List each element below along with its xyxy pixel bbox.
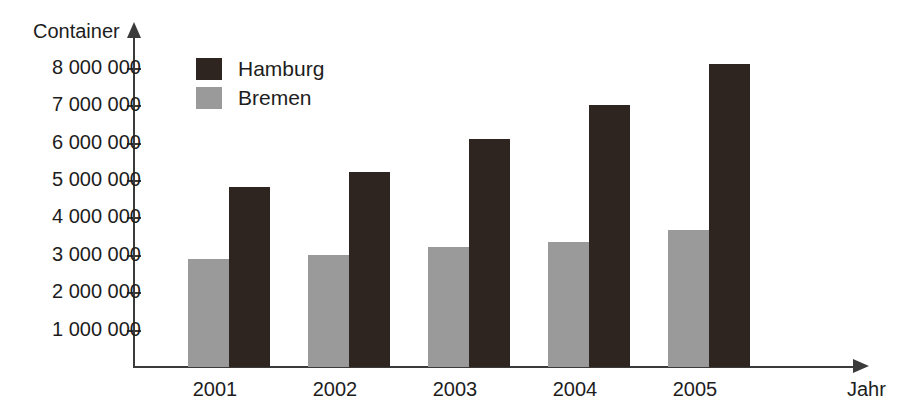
bar-hamburg-2001 (229, 187, 270, 367)
legend-item-hamburg: Hamburg (196, 54, 324, 83)
chart-legend: HamburgBremen (196, 54, 324, 112)
legend-item-bremen: Bremen (196, 83, 324, 112)
legend-label: Bremen (238, 86, 312, 110)
legend-swatch-bremen (196, 87, 222, 109)
x-axis-tick-label: 2002 (275, 378, 395, 401)
y-axis-title: Container (33, 20, 120, 43)
bar-bremen-2003 (428, 247, 469, 367)
x-axis-tick-label: 2001 (155, 378, 275, 401)
bar-group-2003 (402, 34, 522, 367)
bar-bremen-2005 (668, 230, 709, 367)
bar-bremen-2002 (308, 255, 349, 367)
y-axis-tick-label: 1 000 000 (27, 318, 141, 341)
bar-hamburg-2003 (469, 139, 510, 367)
bar-chart: Container 1 000 0002 000 0003 000 0004 0… (0, 0, 901, 411)
y-axis-tick-label: 7 000 000 (27, 93, 141, 116)
y-axis-tick-label: 5 000 000 (27, 168, 141, 191)
x-axis-title: Jahr (847, 378, 886, 401)
y-axis-tick-label: 8 000 000 (27, 56, 141, 79)
bar-group-2005 (642, 34, 762, 367)
bar-hamburg-2005 (709, 64, 750, 367)
x-axis-tick-label: 2004 (515, 378, 635, 401)
x-axis-tick-label: 2005 (635, 378, 755, 401)
y-axis-tick-label: 3 000 000 (27, 243, 141, 266)
y-axis-tick-label: 6 000 000 (27, 131, 141, 154)
bar-hamburg-2004 (589, 105, 630, 367)
bar-bremen-2001 (188, 259, 229, 368)
legend-label: Hamburg (238, 57, 324, 81)
y-axis-tick-label: 4 000 000 (27, 205, 141, 228)
legend-swatch-hamburg (196, 58, 222, 80)
bar-hamburg-2002 (349, 172, 390, 367)
x-axis-tick-label: 2003 (395, 378, 515, 401)
bar-bremen-2004 (548, 242, 589, 367)
y-axis-tick-label: 2 000 000 (27, 280, 141, 303)
bar-group-2004 (522, 34, 642, 367)
x-axis-arrow-icon (853, 359, 869, 373)
